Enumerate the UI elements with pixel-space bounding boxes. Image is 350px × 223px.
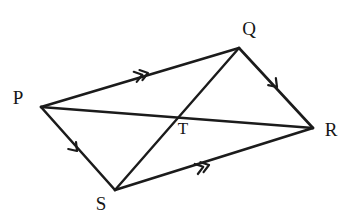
segment-ps xyxy=(41,107,115,190)
vertex-label-r: R xyxy=(325,119,338,140)
geometry-canvas: P Q R S T xyxy=(0,0,350,223)
segment-sr xyxy=(115,128,313,190)
vertex-label-s: S xyxy=(96,193,107,214)
vertex-label-p: P xyxy=(13,87,24,108)
geometry-figure: P Q R S T xyxy=(0,0,350,223)
intersection-label-t: T xyxy=(178,119,189,138)
segment-qr xyxy=(239,48,313,128)
vertex-label-q: Q xyxy=(242,18,256,39)
tick-mark-sr xyxy=(195,164,204,174)
